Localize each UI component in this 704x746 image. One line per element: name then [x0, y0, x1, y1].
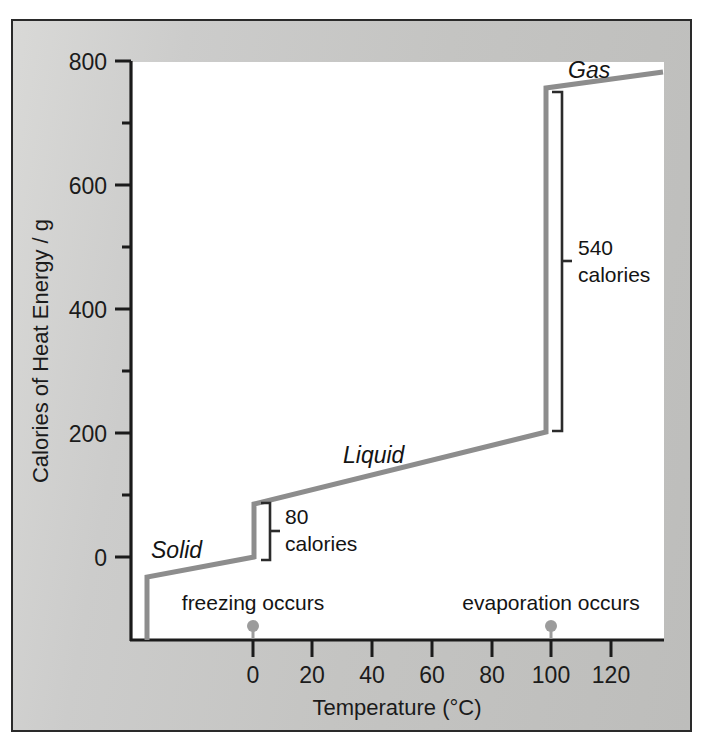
- phase-label-liquid: Liquid: [343, 442, 406, 468]
- x-tick-label-0: 0: [247, 662, 260, 688]
- y-axis-major-ticks: [115, 61, 131, 557]
- fusion-value-label: 80: [285, 505, 308, 528]
- x-axis-major-ticks: [253, 640, 611, 657]
- heating-curve-line: [147, 72, 663, 640]
- x-axis-tick-labels: 0 20 40 60 80 100 120: [247, 662, 631, 688]
- x-tick-label-40: 40: [359, 662, 385, 688]
- y-tick-label-200: 200: [69, 421, 107, 447]
- vaporization-value-label: 540: [578, 236, 613, 259]
- vaporization-unit-label: calories: [578, 263, 650, 286]
- axes-group: [130, 61, 664, 641]
- y-tick-label-400: 400: [69, 297, 107, 323]
- y-tick-label-0: 0: [94, 545, 107, 571]
- evaporation-event-group: evaporation occurs: [462, 591, 639, 639]
- vaporization-bracket-group: 540 calories: [552, 92, 650, 431]
- vaporization-bracket-icon: [552, 92, 562, 431]
- y-axis-title: Calories of Heat Energy / g: [28, 219, 53, 483]
- freezing-event-label: freezing occurs: [182, 591, 324, 614]
- freezing-marker-dot: [247, 620, 259, 632]
- x-tick-label-20: 20: [299, 662, 325, 688]
- x-tick-label-80: 80: [479, 662, 505, 688]
- phase-label-gas: Gas: [568, 57, 611, 83]
- figure-container: 800 600 400 200 0 0 20 40 60 80 100 120: [0, 0, 704, 746]
- freezing-event-group: freezing occurs: [182, 591, 324, 639]
- fusion-unit-label: calories: [285, 532, 357, 555]
- y-tick-label-800: 800: [69, 49, 107, 75]
- fusion-bracket-icon: [261, 503, 270, 560]
- y-tick-label-600: 600: [69, 173, 107, 199]
- evaporation-marker-dot: [545, 620, 557, 632]
- evaporation-event-label: evaporation occurs: [462, 591, 639, 614]
- x-axis-title: Temperature (°C): [313, 695, 482, 720]
- x-tick-label-60: 60: [419, 662, 445, 688]
- x-tick-label-100: 100: [532, 662, 570, 688]
- fusion-bracket-group: 80 calories: [261, 503, 357, 560]
- heating-curve-group: [147, 72, 663, 640]
- phase-label-solid: Solid: [151, 537, 203, 563]
- heating-curve-chart: 800 600 400 200 0 0 20 40 60 80 100 120: [0, 0, 704, 746]
- x-tick-label-120: 120: [592, 662, 630, 688]
- y-axis-tick-labels: 800 600 400 200 0: [69, 49, 107, 571]
